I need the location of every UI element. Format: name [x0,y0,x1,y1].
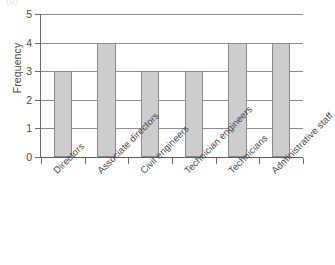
y-tick-label: 3 [18,66,32,76]
bar [228,43,246,157]
bar [272,43,290,157]
bar [97,43,115,157]
gridline [41,14,303,15]
x-tick-mark [41,158,42,164]
x-tick-mark [216,158,217,164]
y-tick-label: 0 [18,152,32,162]
x-tick-mark [172,158,173,164]
figure-tag: (b) [6,0,18,6]
y-tick-label: 2 [18,95,32,105]
bar [185,71,203,157]
x-tick-mark [128,158,129,164]
x-tick-mark [303,158,304,164]
y-tick-label: 4 [18,38,32,48]
gridline [41,43,303,44]
y-tick-label: 5 [18,9,32,19]
x-tick-mark [85,158,86,164]
y-tick-label: 1 [18,123,32,133]
gridline [41,100,303,101]
gridline [41,128,303,129]
x-tick-mark [259,158,260,164]
bar [54,71,72,157]
gridline [41,71,303,72]
